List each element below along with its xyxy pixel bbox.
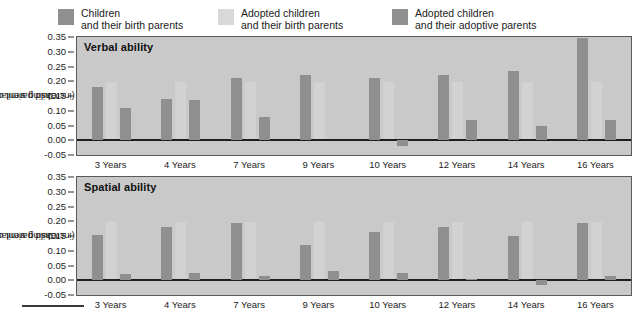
bar-verbal-g2-s0 <box>231 78 242 140</box>
bar-light-guide-g0 <box>106 82 117 140</box>
legend-label-line1: Children <box>81 7 120 19</box>
y-tick-label: -0.05 <box>44 290 66 300</box>
y-tick-label: 0.15 <box>48 91 67 101</box>
x-axis-top: 3 Years4 Years7 Years9 Years10 Years12 Y… <box>76 157 632 175</box>
y-tick-label: 0.20 <box>48 217 67 227</box>
legend-label-children-birth: Children and their birth parents <box>81 8 183 31</box>
y-tick-label: 0.15 <box>48 231 67 241</box>
y-tick-mark <box>68 51 74 52</box>
zero-line-verbal <box>77 139 631 141</box>
x-tick-label: 7 Years <box>233 160 265 170</box>
y-tick-label: -0.05 <box>44 150 66 160</box>
y-tick-label: 0.20 <box>48 77 67 87</box>
x-tick-label: 16 Years <box>577 300 614 310</box>
y-tick-label: 0.35 <box>48 32 67 42</box>
bar-spatial-g2-s2 <box>259 276 270 280</box>
bar-light-guide-g4 <box>383 222 394 280</box>
plot-title-verbal: Verbal ability <box>84 41 153 53</box>
y-tick-mark <box>68 81 74 82</box>
bar-verbal-g7-s2 <box>605 120 616 141</box>
bar-light-guide-g5 <box>452 82 463 140</box>
legend-item-children-birth: Children and their birth parents <box>58 8 183 31</box>
legend-label-line2: and their birth parents <box>81 20 183 32</box>
y-tick-label: 0.00 <box>48 276 67 286</box>
legend-item-adopted-adoptive: Adopted children and their adoptive pare… <box>392 8 536 31</box>
y-tick-label: 0.05 <box>48 261 67 271</box>
bar-light-guide-g3 <box>314 82 325 140</box>
bar-spatial-g3-s2 <box>328 271 339 280</box>
y-tick-mark <box>68 280 74 281</box>
bar-light-guide-g3 <box>314 222 325 280</box>
bar-light-guide-g1 <box>175 82 186 140</box>
x-tick-label: 4 Years <box>164 300 196 310</box>
zero-line-spatial <box>77 279 631 281</box>
y-tick-label: 0.30 <box>48 187 67 197</box>
legend-label-adopted-birth: Adopted children and their birth parents <box>241 8 343 31</box>
y-tick-mark <box>68 155 74 156</box>
y-axis-ticks-top: 0.350.300.250.200.150.100.050.00-0.05 <box>30 36 74 156</box>
bar-spatial-g7-s0 <box>577 223 588 281</box>
bar-spatial-g7-s2 <box>605 276 616 280</box>
bar-light-guide-g2 <box>245 82 256 140</box>
y-tick-mark <box>68 265 74 266</box>
bar-verbal-g0-s0 <box>92 87 103 140</box>
y-tick-mark <box>68 140 74 141</box>
bar-light-guide-g0 <box>106 222 117 280</box>
legend-swatch-adopted-birth <box>218 9 234 25</box>
legend-label-adopted-adoptive: Adopted children and their adoptive pare… <box>415 8 536 31</box>
y-tick-label: 0.10 <box>48 246 67 256</box>
y-tick-mark <box>68 110 74 111</box>
bar-light-guide-g4 <box>383 82 394 140</box>
bar-spatial-g4-s0 <box>369 232 380 281</box>
legend-label-line1: Adopted children <box>415 7 494 19</box>
x-tick-label: 4 Years <box>164 160 196 170</box>
bar-verbal-g0-s2 <box>120 108 131 140</box>
bar-spatial-g0-s2 <box>120 274 131 280</box>
bar-light-guide-g2 <box>245 222 256 280</box>
bar-verbal-g2-s2 <box>259 117 270 141</box>
legend-swatch-adopted-adoptive <box>392 9 408 25</box>
x-tick-label: 14 Years <box>508 160 545 170</box>
bar-verbal-g4-s2 <box>397 140 408 146</box>
y-tick-mark <box>68 236 74 237</box>
y-tick-label: 0.25 <box>48 202 67 212</box>
y-tick-mark <box>68 177 74 178</box>
y-tick-label: 0.30 <box>48 47 67 57</box>
y-tick-mark <box>68 66 74 67</box>
y-axis-label-top: Child parent correlation (increasing sim… <box>8 36 30 156</box>
bar-light-guide-g6 <box>522 82 533 140</box>
bar-spatial-g5-s2 <box>466 279 477 280</box>
x-tick-label: 3 Years <box>95 160 127 170</box>
bar-spatial-g1-s2 <box>189 273 200 280</box>
y-axis-label-bottom: Child parent correlation (increasing sim… <box>8 176 30 296</box>
y-tick-label: 0.35 <box>48 172 67 182</box>
bar-spatial-g1-s0 <box>161 227 172 280</box>
y-tick-mark <box>68 96 74 97</box>
bar-verbal-g6-s2 <box>536 126 547 141</box>
y-axis-ticks-bottom: 0.350.300.250.200.150.100.050.00-0.05 <box>30 176 74 296</box>
x-tick-label: 10 Years <box>369 300 406 310</box>
bar-verbal-g7-s0 <box>577 38 588 140</box>
x-tick-label: 9 Years <box>303 160 335 170</box>
bar-verbal-g6-s0 <box>508 71 519 140</box>
y-tick-label: 0.00 <box>48 136 67 146</box>
y-tick-mark <box>68 191 74 192</box>
bar-spatial-g4-s2 <box>397 273 408 280</box>
bar-light-guide-g5 <box>452 222 463 280</box>
bar-light-guide-g6 <box>522 222 533 280</box>
plot-area-verbal: Verbal ability <box>76 36 632 156</box>
bar-verbal-g3-s0 <box>300 75 311 140</box>
bar-light-guide-g1 <box>175 222 186 280</box>
y-tick-mark <box>68 206 74 207</box>
x-tick-label: 14 Years <box>508 300 545 310</box>
x-tick-label: 12 Years <box>438 160 475 170</box>
bar-verbal-g5-s2 <box>466 120 477 141</box>
legend-item-adopted-birth: Adopted children and their birth parents <box>218 8 343 31</box>
bar-verbal-g1-s0 <box>161 99 172 140</box>
bar-spatial-g6-s2 <box>536 280 547 284</box>
y-tick-mark <box>68 295 74 296</box>
x-tick-label: 7 Years <box>233 300 265 310</box>
bar-light-guide-g7 <box>591 82 602 140</box>
y-tick-mark <box>68 221 74 222</box>
y-tick-mark <box>68 250 74 251</box>
